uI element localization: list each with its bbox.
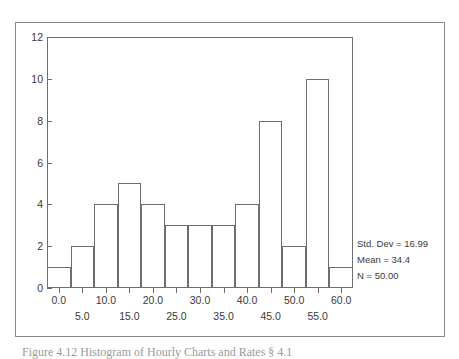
y-tick-mark <box>47 79 52 80</box>
x-tick-mark <box>176 288 177 293</box>
x-tick-mark <box>200 288 201 293</box>
y-tick-label: 2 <box>17 241 43 252</box>
y-tick-mark <box>47 288 52 289</box>
x-tick-mark <box>294 288 295 293</box>
x-tick-mark <box>106 288 107 293</box>
y-tick-label: 8 <box>17 116 43 127</box>
x-tick-mark <box>318 288 319 293</box>
y-tick-mark <box>47 204 52 205</box>
histogram-bar <box>235 204 259 288</box>
x-tick-label: 35.0 <box>204 311 244 322</box>
y-tick-label: 10 <box>17 74 43 85</box>
histogram-bar <box>282 246 306 288</box>
x-tick-mark <box>224 288 225 293</box>
histogram-bar <box>141 204 165 288</box>
x-tick-label: 20.0 <box>133 295 173 306</box>
std-dev-label: Std. Dev = 16.99 <box>357 236 445 252</box>
x-tick-label: 25.0 <box>156 311 196 322</box>
x-tick-mark <box>341 288 342 293</box>
histogram-bars <box>47 37 353 288</box>
x-tick-label: 10.0 <box>86 295 126 306</box>
x-tick-mark <box>153 288 154 293</box>
histogram-bar <box>47 267 71 288</box>
histogram-bar <box>329 267 353 288</box>
y-tick-label: 6 <box>17 158 43 169</box>
x-tick-label: 60.0 <box>321 295 361 306</box>
histogram-bar <box>94 204 118 288</box>
x-tick-label: 50.0 <box>274 295 314 306</box>
x-tick-label: 5.0 <box>62 311 102 322</box>
x-tick-mark <box>59 288 60 293</box>
y-tick-label: 4 <box>17 199 43 210</box>
y-tick-mark <box>47 121 52 122</box>
histogram-bar <box>188 225 212 288</box>
histogram-bar <box>71 246 95 288</box>
y-tick-mark <box>47 246 52 247</box>
y-tick-mark <box>47 163 52 164</box>
mean-label: Mean = 34.4 <box>357 252 445 268</box>
histogram-bar <box>212 225 236 288</box>
histogram-bar <box>118 183 142 288</box>
histogram-bar <box>259 121 283 288</box>
x-tick-label: 30.0 <box>180 295 220 306</box>
histogram-bar <box>306 79 330 288</box>
x-tick-mark <box>271 288 272 293</box>
figure-caption: Figure 4.12 Histogram of Hourly Charts a… <box>22 345 292 359</box>
n-label: N = 50.00 <box>357 268 445 284</box>
y-tick-label: 0 <box>17 283 43 294</box>
x-tick-label: 55.0 <box>298 311 338 322</box>
x-tick-mark <box>82 288 83 293</box>
x-tick-label: 40.0 <box>227 295 267 306</box>
x-tick-mark <box>247 288 248 293</box>
statistics-legend: Std. Dev = 16.99 Mean = 34.4 N = 50.00 <box>357 236 445 284</box>
histogram-bar <box>165 225 189 288</box>
y-tick-label: 12 <box>17 32 43 43</box>
x-tick-label: 0.0 <box>39 295 79 306</box>
x-tick-mark <box>129 288 130 293</box>
x-tick-label: 45.0 <box>251 311 291 322</box>
x-tick-label: 15.0 <box>109 311 149 322</box>
